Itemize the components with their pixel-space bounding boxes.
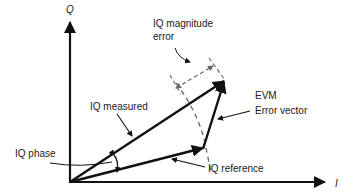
magnitude-error-leader bbox=[175, 48, 190, 62]
iq-reference-leader bbox=[172, 159, 205, 167]
extension-line-right bbox=[209, 58, 225, 80]
iq-magnitude-error-label-line2: error bbox=[153, 31, 175, 42]
iq-phase-label: IQ phase bbox=[15, 148, 56, 159]
error-vector-label: Error vector bbox=[255, 105, 308, 116]
iq-vector-diagram: Q I IQ magnitude error EVM Error vector … bbox=[0, 0, 355, 194]
extension-line-left bbox=[170, 75, 181, 94]
iq-measured-leader bbox=[117, 114, 132, 136]
q-axis-label: Q bbox=[66, 4, 74, 15]
magnitude-circle-arc bbox=[176, 83, 211, 172]
i-axis-label: I bbox=[335, 178, 338, 189]
error-vector-leader bbox=[218, 111, 250, 119]
iq-phase-leader bbox=[50, 162, 112, 165]
iq-magnitude-error-label: IQ magnitude bbox=[153, 18, 213, 29]
iq-measured-label: IQ measured bbox=[90, 101, 148, 112]
magnitude-error-dimension bbox=[176, 66, 213, 88]
iq-reference-label: IQ reference bbox=[208, 163, 264, 174]
evm-label: EVM bbox=[255, 90, 277, 101]
iq-measured-vector bbox=[70, 81, 224, 182]
